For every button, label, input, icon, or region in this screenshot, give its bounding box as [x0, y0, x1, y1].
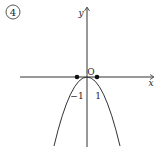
graph-figure: 4 x y O −1 1	[0, 0, 162, 156]
figure-number-badge: 4	[6, 5, 20, 19]
y-axis-label: y	[77, 8, 84, 18]
x-axis-label: x	[148, 78, 153, 88]
point-neg-1	[75, 75, 80, 80]
figure-number: 4	[10, 7, 16, 18]
point-pos-1	[95, 75, 100, 80]
tick-label-neg-1: −1	[70, 91, 83, 101]
tick-label-pos-1: 1	[95, 91, 101, 101]
origin-label: O	[87, 67, 94, 77]
